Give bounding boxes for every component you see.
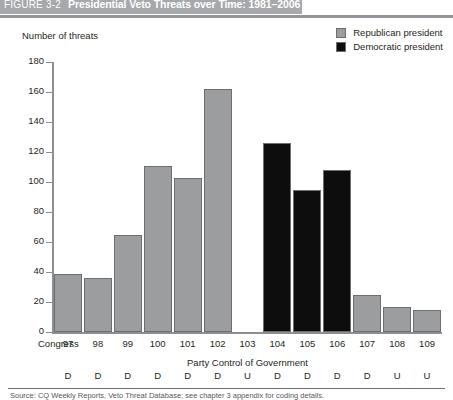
bar-slot — [382, 62, 412, 332]
y-axis-tick-label: 100 — [4, 175, 44, 186]
party-control-102: D — [203, 370, 233, 381]
bar-slot — [143, 62, 173, 332]
party-control-caption: Party Control of Government — [53, 357, 442, 368]
bar-slot — [262, 62, 292, 332]
party-control-101: D — [173, 370, 203, 381]
x-axis-line — [52, 332, 442, 334]
x-axis-label-104: 104 — [262, 338, 292, 349]
x-axis-label-98: 98 — [83, 338, 113, 349]
x-axis-label-108: 108 — [382, 338, 412, 349]
chart-legend: Republican president Democratic presiden… — [336, 27, 443, 52]
bar-congress-106 — [323, 170, 351, 332]
party-control-97: D — [53, 370, 83, 381]
legend-label-republican: Republican president — [353, 27, 442, 38]
y-axis-tick — [46, 122, 52, 123]
y-axis-tick — [46, 272, 52, 273]
bar-congress-108 — [383, 307, 411, 333]
x-axis-label-106: 106 — [322, 338, 352, 349]
y-axis-tick — [46, 332, 52, 333]
y-axis-tick — [46, 62, 52, 63]
y-axis-tick-label: 60 — [4, 235, 44, 246]
y-axis-tick — [46, 152, 52, 153]
x-axis-label-107: 107 — [352, 338, 382, 349]
bar-congress-99 — [114, 235, 142, 333]
legend-item-republican: Republican president — [336, 27, 443, 38]
y-axis-tick-label: 20 — [4, 295, 44, 306]
legend-label-democratic: Democratic president — [353, 41, 443, 52]
x-axis-label-100: 100 — [143, 338, 173, 349]
bar-slot — [412, 62, 442, 332]
figure-header-band: FIGURE 3-2 Presidential Veto Threats ove… — [0, 0, 302, 14]
figure-title: Presidential Veto Threats over Time: 198… — [68, 0, 300, 10]
party-control-109: U — [412, 370, 442, 381]
bar-congress-101 — [174, 178, 202, 333]
x-axis-label-102: 102 — [203, 338, 233, 349]
party-control-105: D — [292, 370, 322, 381]
x-axis-label-99: 99 — [113, 338, 143, 349]
party-control-107: D — [352, 370, 382, 381]
footer-divider-rule — [8, 388, 445, 389]
y-axis-tick — [46, 92, 52, 93]
bar-congress-100 — [144, 166, 172, 333]
party-control-104: D — [262, 370, 292, 381]
y-axis-tick-label: 140 — [4, 115, 44, 126]
party-control-99: D — [113, 370, 143, 381]
y-axis-tick-label: 40 — [4, 265, 44, 276]
bar-slot — [322, 62, 352, 332]
bar-congress-105 — [293, 190, 321, 333]
y-axis-tick — [46, 302, 52, 303]
y-axis-tick — [46, 242, 52, 243]
bar-congress-97 — [54, 274, 82, 333]
bar-congress-98 — [84, 278, 112, 332]
bar-slot — [203, 62, 233, 332]
party-control-100: D — [143, 370, 173, 381]
y-axis-tick — [46, 182, 52, 183]
party-control-108: U — [382, 370, 412, 381]
party-control-98: D — [83, 370, 113, 381]
y-axis-tick-label: 160 — [4, 85, 44, 96]
bar-slot — [292, 62, 322, 332]
x-axis-label-101: 101 — [173, 338, 203, 349]
x-axis-label-97: 97 — [53, 338, 83, 349]
bar-congress-104 — [263, 143, 291, 332]
y-axis-tick-label: 80 — [4, 205, 44, 216]
y-axis-tick-label: 0 — [4, 325, 44, 336]
legend-item-democratic: Democratic president — [336, 41, 443, 52]
x-axis-label-105: 105 — [292, 338, 322, 349]
bar-congress-107 — [353, 295, 381, 333]
square-swatch-icon — [336, 28, 346, 38]
party-control-106: D — [322, 370, 352, 381]
y-axis-tick-label: 120 — [4, 145, 44, 156]
bar-series-group — [53, 62, 442, 332]
bar-slot — [352, 62, 382, 332]
x-axis-label-109: 109 — [412, 338, 442, 349]
y-axis-tick — [46, 212, 52, 213]
header-divider-rule — [0, 15, 453, 18]
bar-slot — [53, 62, 83, 332]
party-control-103: U — [233, 370, 263, 381]
bar-congress-109 — [413, 310, 441, 333]
source-note: Source: CQ Weekly Reports, Veto Threat D… — [10, 391, 450, 400]
square-swatch-icon — [336, 42, 346, 52]
bar-slot — [233, 62, 263, 332]
x-axis-tick-group: 979899100101102103104105106107108109 — [53, 338, 442, 349]
party-control-row: DDDDDDUDDDDUU — [53, 370, 442, 381]
bar-slot — [113, 62, 143, 332]
x-axis-label-103: 103 — [233, 338, 263, 349]
bar-slot — [173, 62, 203, 332]
y-axis-tick-label: 180 — [4, 55, 44, 66]
bar-congress-102 — [204, 89, 232, 332]
bar-slot — [83, 62, 113, 332]
